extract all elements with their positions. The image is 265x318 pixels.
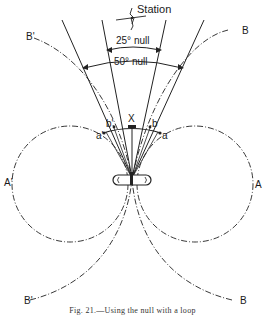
null-25-arc [108,47,160,50]
point-a-right-label: a [162,131,168,141]
center-x-label: X [128,114,135,124]
lobe-a-right [137,126,253,242]
figure-caption: Fig. 21.—Using the null with a loop [0,306,265,315]
lobe-b-lower-right-label: B [240,296,247,306]
ray-a-right [132,132,158,178]
loop-antenna-center [130,172,133,185]
lobe-b-lower-left-label: B' [24,296,33,306]
null-25-label: 25° null [116,36,149,46]
diagram-canvas [0,0,265,318]
lobe-b-upper-left-label: B' [26,32,35,42]
lobe-a-left [12,126,128,242]
lobe-a-left-label: A' [4,178,13,188]
ray-b-left [113,125,132,178]
lobe-b-lower-right [132,180,232,300]
lobe-b-upper-right [132,30,228,180]
x-marker [128,125,136,128]
point-b-right-dot [149,126,152,129]
lobe-a-right-label: A [255,180,262,190]
point-b-left-label: b' [106,119,113,129]
point-a-left-label: a' [96,131,103,141]
lobe-b-upper-right-label: B [242,26,249,36]
null-50-label: 50° null [114,57,147,67]
station-dot [131,17,133,19]
station-label: Station [137,4,171,15]
lobe-b-lower-left [30,180,132,300]
point-b-right-label: b [152,119,158,129]
